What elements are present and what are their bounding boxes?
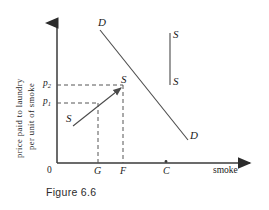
origin-label: 0 bbox=[47, 166, 52, 176]
supply-curve-label-upper: S bbox=[121, 74, 127, 85]
y-tick-label-p2-sub: 2 bbox=[48, 82, 51, 89]
y-axis-title-line1: price paid to laundry bbox=[14, 78, 24, 158]
economics-diagram bbox=[0, 0, 269, 210]
y-tick-label-p1-sub: 1 bbox=[48, 100, 51, 107]
x-tick-label-c: C bbox=[163, 166, 170, 176]
figure-container: price paid to laundry per unit of smoke … bbox=[0, 0, 269, 210]
tick-marker-c bbox=[165, 160, 168, 163]
x-tick-label-g: G bbox=[94, 166, 101, 176]
figure-caption: Figure 6.6 bbox=[46, 186, 96, 198]
y-tick-label-p1: p1 bbox=[43, 97, 51, 107]
vertical-supply-label-top: S bbox=[173, 29, 179, 40]
x-axis-title: smoke bbox=[213, 166, 238, 176]
supply-curve bbox=[73, 88, 121, 126]
vertical-supply-label-bottom: S bbox=[173, 76, 179, 87]
y-axis-title-line2: per unit of smoke bbox=[26, 83, 36, 150]
supply-curve-label-lower: S bbox=[66, 113, 72, 124]
x-tick-label-f: F bbox=[120, 166, 126, 176]
demand-curve-label-top: D bbox=[98, 17, 106, 28]
y-tick-label-p2: p2 bbox=[43, 79, 51, 89]
demand-curve-label-bottom: D bbox=[190, 130, 198, 141]
